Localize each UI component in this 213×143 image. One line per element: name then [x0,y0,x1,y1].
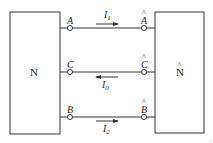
stray-dot [209,140,210,141]
terminal-b [68,115,73,120]
terminal-b-hat [142,115,147,120]
line-c: C C ^ I0 [60,53,155,92]
terminal-a [68,26,73,31]
line-b: B B ^ I2 [60,98,155,136]
label-b: B [67,104,73,115]
left-network-box: N [10,12,60,134]
three-wire-network-diagram: N N ^ A A ^ I1 C C ^ I0 B [0,0,213,143]
label-c: C [67,59,74,70]
terminal-c [68,70,73,75]
terminal-c-hat [142,70,147,75]
line-a: A A ^ I1 [60,9,155,31]
current-label-i1: I1 [103,9,111,22]
label-a: A [66,15,74,26]
current-label-i0: I0 [101,79,109,92]
current-label-i2: I2 [102,123,110,136]
hat-c: ^ [142,53,146,62]
right-network-hat: ^ [178,61,182,70]
right-network-box: N ^ [155,12,204,133]
terminal-a-hat [142,26,147,31]
left-network-label: N [30,66,38,78]
hat-b: ^ [142,98,146,107]
hat-a: ^ [142,9,146,18]
